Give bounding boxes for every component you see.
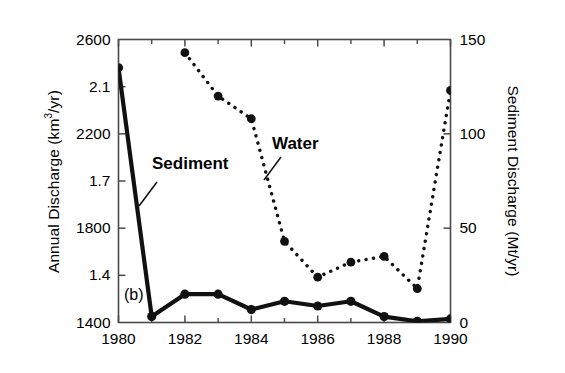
series-point-sediment-1 [147,312,156,321]
series-point-water-8 [446,86,455,95]
series-point-sediment-8 [380,312,389,321]
series-point-sediment-7 [346,297,355,306]
series-point-sediment-2 [180,290,189,299]
series-point-water-3 [280,237,289,246]
series-point-sediment-0 [114,63,123,72]
series-point-water-4 [313,273,322,282]
series-point-sediment-4 [247,305,256,314]
figure-panel-b: Annual Discharge (km3/yr) Sediment Disch… [0,0,565,373]
plot-area [0,0,565,373]
series-point-sediment-5 [280,297,289,306]
series-point-water-0 [181,48,190,57]
series-point-sediment-6 [313,301,322,310]
series-point-sediment-10 [446,314,455,323]
series-point-water-7 [413,284,422,293]
series-point-water-6 [380,252,389,261]
series-point-water-2 [247,114,256,123]
plot-frame [119,40,451,323]
leader-line-water [264,157,281,180]
series-point-sediment-9 [413,317,422,326]
series-point-water-5 [347,258,356,267]
series-point-water-1 [214,92,223,101]
leader-line-sediment [139,182,157,206]
series-line-sediment [119,68,451,322]
series-point-sediment-3 [214,290,223,299]
series-line-water [185,53,451,289]
